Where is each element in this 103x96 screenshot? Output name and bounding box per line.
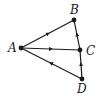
edge-c-b bbox=[74, 20, 80, 50]
node-c bbox=[78, 48, 83, 53]
edge-d-a bbox=[21, 48, 82, 79]
label-a: A bbox=[7, 41, 17, 55]
edge-a-b bbox=[21, 20, 74, 48]
label-c: C bbox=[86, 44, 95, 58]
node-a bbox=[19, 46, 24, 51]
label-b: B bbox=[69, 3, 79, 17]
directed-graph: A B C D bbox=[0, 0, 103, 96]
label-d: D bbox=[76, 82, 87, 96]
node-d bbox=[80, 77, 85, 82]
edge-a-c bbox=[21, 48, 80, 50]
node-b bbox=[72, 18, 77, 23]
edge-d-c bbox=[80, 50, 82, 79]
